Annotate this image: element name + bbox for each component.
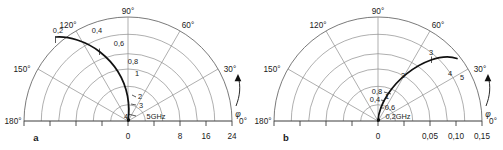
angular-label-180: 180°: [255, 117, 272, 126]
radial-tick-24: 24: [227, 132, 237, 141]
freq-label-0.8: 0,8: [128, 57, 138, 66]
angular-label-180: 180°: [5, 117, 22, 126]
freq-label-0.6: 0,6: [114, 39, 124, 48]
angular-label-60: 60°: [182, 21, 194, 30]
freq-label-1: 1: [135, 69, 139, 78]
freq-label-0.6: 0,6: [385, 103, 395, 112]
freq-label-2: 2: [138, 92, 142, 101]
freq-label-3: 3: [429, 48, 433, 57]
polar-panel-b: 90° 120° 60° 150° 30° 180° 0° φ 2 3 4 5 …: [251, 0, 502, 150]
angular-label-30: 30°: [224, 65, 236, 74]
polar-chart-b-svg: 90° 120° 60° 150° 30° 180° 0° φ 2 3 4 5 …: [251, 0, 503, 150]
phi-rotation-arrow-b: φ: [485, 74, 492, 119]
angular-label-150: 150°: [14, 65, 31, 74]
polar-figure-pair: 90° 120° 60° 150° 30° 180° 0° φ 0,2 0,4 …: [0, 0, 503, 150]
polar-chart-a-svg: 90° 120° 60° 150° 30° 180° 0° φ 0,2 0,4 …: [0, 0, 251, 150]
freq-label-5ghz: 5GHz: [147, 112, 166, 121]
origin-marker-a: [127, 118, 130, 121]
angular-label-90: 90°: [122, 7, 134, 16]
panel-label-a: a: [33, 132, 39, 143]
freq-label-0.4: 0,4: [370, 95, 380, 104]
freq-label-5: 5: [460, 73, 464, 82]
grid-spoke-120: [326, 31, 378, 121]
freq-label-3: 3: [139, 101, 143, 110]
freq-label-0.2: 0,2: [53, 26, 63, 35]
grid-spoke-150: [38, 69, 128, 121]
phi-rotation-arrow-a: φ: [235, 74, 242, 119]
radial-tick-0: 0: [126, 132, 131, 141]
data-curve-a: [56, 37, 129, 121]
angular-label-60: 60°: [432, 21, 444, 30]
radial-tick-16: 16: [201, 132, 211, 141]
origin-marker-b: [377, 118, 380, 121]
radial-tick-8: 8: [178, 132, 183, 141]
radial-tick-010: 0,10: [448, 132, 464, 141]
angular-label-90: 90°: [372, 7, 384, 16]
polar-panel-a: 90° 120° 60° 150° 30° 180° 0° φ 0,2 0,4 …: [0, 0, 251, 150]
freq-label-4: 4: [448, 69, 452, 78]
panel-label-b: b: [283, 132, 289, 143]
phi-label: φ: [485, 109, 491, 119]
angular-label-120: 120°: [310, 21, 327, 30]
radial-tick-015: 0,15: [474, 132, 490, 141]
radial-tick-0: 0: [376, 132, 381, 141]
freq-label-2: 2: [401, 71, 405, 80]
phi-label: φ: [235, 109, 241, 119]
freq-label-0.2ghz: 0,2GHz: [385, 112, 410, 121]
leader-tick: [132, 95, 136, 97]
radial-tick-005: 0,05: [422, 132, 438, 141]
angular-label-150: 150°: [264, 65, 281, 74]
angular-label-30: 30°: [474, 65, 486, 74]
freq-label-0.4: 0,4: [92, 26, 102, 35]
grid-spoke-150: [288, 69, 378, 121]
